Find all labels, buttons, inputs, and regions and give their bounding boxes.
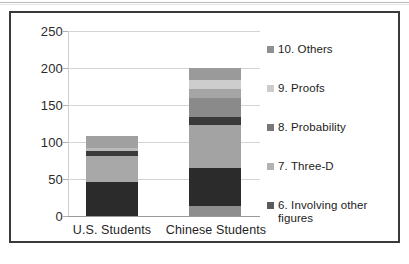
chart-frame: 250 200 150 100 50 0 [9, 11, 400, 243]
legend-label: 9. Proofs [278, 82, 325, 95]
segment-6-involving[interactable] [86, 182, 138, 216]
y-tick-150: 150 [23, 99, 63, 112]
gridline-0 [68, 216, 260, 217]
segment-base-band[interactable] [189, 206, 241, 216]
legend-swatch-icon [267, 85, 274, 92]
legend-item-6-involving[interactable]: 6. Involving other figures [267, 199, 396, 225]
segment-7-three-d[interactable] [86, 156, 138, 182]
x-label-us-students: U.S. Students [60, 223, 164, 237]
legend-label: 8. Probability [278, 121, 346, 134]
x-label-chinese-students: Chinese Students [157, 223, 275, 237]
legend-item-8-probability[interactable]: 8. Probability [267, 121, 346, 134]
legend-item-9-proofs[interactable]: 9. Proofs [267, 82, 325, 95]
scan-artifact-line-2 [0, 4, 409, 5]
y-axis-labels: 250 200 150 100 50 0 [19, 13, 63, 245]
segment-9-proofs-lower[interactable] [189, 89, 241, 98]
plot-area: 250 200 150 100 50 0 [11, 13, 402, 245]
chart-page: 250 200 150 100 50 0 [0, 0, 409, 264]
y-tick-100: 100 [23, 136, 63, 149]
segment-8-upper[interactable] [189, 98, 241, 117]
segment-8-probability[interactable] [189, 117, 241, 125]
legend-item-10-others[interactable]: 10. Others [267, 43, 333, 56]
legend-item-7-three-d[interactable]: 7. Three-D [267, 160, 334, 173]
legend-swatch-icon [267, 163, 274, 170]
segment-10-others[interactable] [189, 68, 241, 80]
legend-swatch-icon [267, 46, 274, 53]
y-tick-200: 200 [23, 62, 63, 75]
legend-swatch-icon [267, 124, 274, 131]
segment-9-proofs[interactable] [189, 80, 241, 89]
legend-swatch-icon [267, 202, 274, 209]
legend-label: 10. Others [278, 43, 333, 56]
chart-legend: 10. Others 9. Proofs 8. Probability 7. T… [267, 31, 399, 231]
y-tick-250: 250 [23, 25, 63, 38]
bar-chinese-students[interactable] [189, 68, 241, 216]
segment-6-involving[interactable] [189, 168, 241, 206]
legend-label: 7. Three-D [278, 160, 334, 173]
scan-artifact-line [0, 2, 409, 3]
y-tick-0: 0 [23, 210, 63, 223]
legend-label: 6. Involving other figures [278, 199, 396, 225]
segment-7-three-d[interactable] [189, 125, 241, 168]
gridline-250 [68, 31, 260, 32]
bar-us-students[interactable] [86, 136, 138, 216]
segment-10-others[interactable] [86, 136, 138, 148]
y-tick-50: 50 [23, 173, 63, 186]
